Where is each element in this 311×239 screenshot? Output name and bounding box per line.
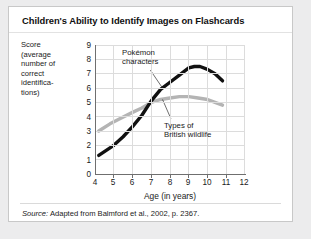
y-tick-label-2: 2 [77,141,91,150]
gridline-vertical [188,45,189,174]
footer-divider [20,203,281,204]
x-tick-label-5: 5 [106,178,120,187]
series-label-pokemon-line: Pokémon [122,48,158,57]
gridline-horizontal [95,116,245,117]
y-axis-title-line: tions) [21,88,77,98]
gridline-vertical [113,45,114,174]
y-axis-title: Score (average number of correct identif… [21,40,77,98]
gridline-horizontal [95,73,245,74]
source-label: Source: [22,209,48,218]
y-tick-label-6: 6 [77,84,91,93]
y-tick-label-5: 5 [77,98,91,107]
x-tick-label-10: 10 [200,178,214,187]
y-axis-title-line: identifica- [21,78,77,88]
x-tick-label-7: 7 [144,178,158,187]
gridline-horizontal [95,88,245,89]
source-text: Adapted from Balmford et al., 2002, p. 2… [50,209,199,218]
y-axis-line [95,45,96,175]
y-tick-label-7: 7 [77,69,91,78]
x-tick-label-6: 6 [125,178,139,187]
source-note: Source: Adapted from Balmford et al., 20… [22,209,199,218]
series-label-british-wildlife: Types of British wildlife [164,121,211,139]
y-tick-label-4: 4 [77,113,91,122]
y-tick-label-8: 8 [77,55,91,64]
y-axis-title-line: (average [21,50,77,60]
x-tick-label-12: 12 [237,178,251,187]
plot-area [95,45,245,174]
y-tick-label-3: 3 [77,127,91,136]
title-divider [9,32,292,33]
line-pokemon-characters [99,67,223,156]
gridline-horizontal [95,59,245,60]
y-axis-title-line: correct [21,69,77,79]
x-tick-label-11: 11 [219,178,233,187]
series-label-pokemon-line: characters [122,57,158,66]
gridline-vertical [207,45,208,174]
gridline-horizontal [95,45,245,46]
series-label-british-wildlife-line: Types of [164,121,211,130]
series-label-british-wildlife-line: British wildlife [164,130,211,139]
y-tick-label-9: 9 [77,41,91,50]
page-title: Children's Ability to Identify Images on… [22,15,244,26]
x-tick-label-9: 9 [181,178,195,187]
gridline-horizontal [95,102,245,103]
x-tick-label-4: 4 [88,178,102,187]
gridline-vertical [226,45,227,174]
gridline-vertical [244,45,245,174]
x-tick-label-8: 8 [163,178,177,187]
y-axis-title-line: number of [21,59,77,69]
gridline-vertical [170,45,171,174]
y-tick-label-1: 1 [77,156,91,165]
x-axis-title: Age (in years) [95,191,245,201]
series-label-pokemon: Pokémon characters [122,48,158,66]
gridline-horizontal [95,159,245,160]
y-axis-title-line: Score [21,40,77,50]
chart-card: Children's Ability to Identify Images on… [8,6,293,222]
gridline-horizontal [95,145,245,146]
